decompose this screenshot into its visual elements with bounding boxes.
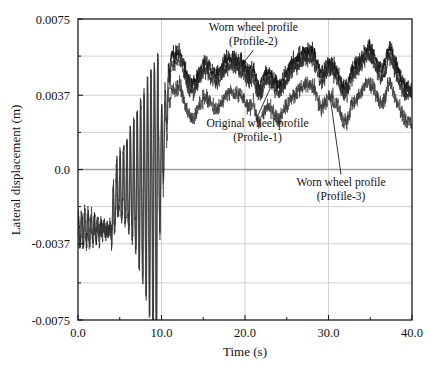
x-tick-label: 40.0 [401, 326, 423, 340]
x-tick-label: 20.0 [234, 326, 256, 340]
y-axis-title: Lateral displacement (m) [8, 105, 23, 236]
lateral-displacement-chart: 0.010.020.030.040.0 -0.0075-0.00370.00.0… [0, 0, 430, 370]
y-tick-label: 0.0075 [36, 13, 70, 27]
annot-profile-3-line2: (Profile-3) [317, 190, 366, 203]
x-tick-label: 30.0 [318, 326, 340, 340]
y-tick-label: -0.0075 [31, 314, 70, 328]
x-tick-label: 0.0 [70, 326, 86, 340]
annot-profile-1-line2: (Profile-1) [233, 131, 282, 144]
y-tick-label: 0.0037 [36, 89, 70, 103]
annot-profile-2-line1: Worn wheel profile [209, 21, 298, 34]
annot-profile-1-line1: Original wheel profile [206, 117, 308, 130]
annot-profile-2-line2: (Profile-2) [229, 35, 278, 48]
y-tick-label: -0.0037 [31, 237, 70, 251]
x-axis-title: Time (s) [223, 344, 267, 359]
x-tick-label: 10.0 [151, 326, 173, 340]
y-tick-label: 0.0 [54, 163, 70, 177]
annot-profile-3-line1: Worn wheel profile [296, 176, 385, 189]
